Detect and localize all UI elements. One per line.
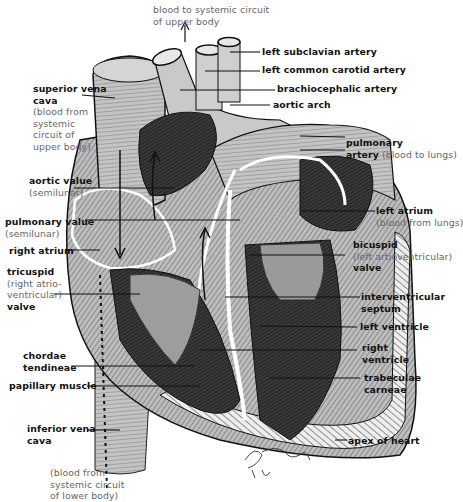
label-left-common-carotid-artery: left common carotid artery xyxy=(262,64,406,76)
label-bottom-note: (blood from systemic circuit of lower bo… xyxy=(50,467,124,502)
label-left-subclavian-artery: left subclavian artery xyxy=(262,46,377,58)
label-bicuspid-valve: bicuspid (left artioventricular) valve xyxy=(353,239,452,274)
label-pulmonary-artery: pulmonary artery (blood to lungs) xyxy=(346,137,457,160)
label-left-atrium: left atrium (blood from lungs) xyxy=(376,205,463,228)
label-trabeculae-carneae: trabeculae carneae xyxy=(364,372,421,395)
label-aortic-valve: aortic value (semilunar) xyxy=(29,175,92,198)
label-right-atrium: right atrium xyxy=(9,245,74,257)
label-apex-of-heart: apex of heart xyxy=(348,435,420,447)
label-superior-vena-cava: superior vena cava (blood from systemic … xyxy=(33,83,107,152)
label-papillary-muscle: papillary muscle xyxy=(9,380,97,392)
label-right-ventricle: right ventricle xyxy=(362,342,409,365)
label-brachiocephalic-artery: brachiocephalic artery xyxy=(277,83,397,95)
label-tricuspid-valve: tricuspid (right atrio- ventricular) val… xyxy=(7,266,62,312)
label-chordae-tendineae: chordae tendineae xyxy=(23,350,77,373)
label-pulmonary-valve: pulmonary value (semilunar) xyxy=(5,216,94,239)
label-left-ventricle: left ventricle xyxy=(360,321,429,333)
label-top-note: blood to systemic circuit of upper body xyxy=(153,4,269,27)
label-interventricular-septum: interventricular septum xyxy=(361,291,445,314)
label-aortic-arch: aortic arch xyxy=(273,99,331,111)
label-inferior-vena-cava: inferior vena cava xyxy=(27,423,96,446)
